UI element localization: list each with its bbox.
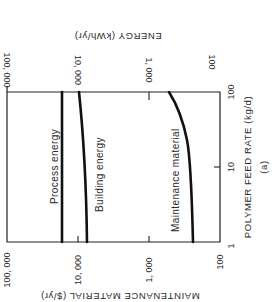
y-left-tick-10000: 10, 000 <box>73 255 83 285</box>
x-tick-label-100: 100 <box>226 84 236 99</box>
x-axis-title: POLYMER FEED RATE (kg/d) <box>242 96 253 238</box>
building-energy-curve <box>79 92 87 242</box>
x-tick-label-10: 10 <box>226 162 236 172</box>
building-energy-label: Building energy <box>94 137 105 212</box>
x-tick-label-1: 1 <box>226 243 236 248</box>
y-left-tick-100: 100 <box>215 254 225 269</box>
y-right-tick-1000: 1, 000 <box>144 57 154 82</box>
y-left-tick-100000: 100, 000 <box>2 252 12 287</box>
y-right-tick-100000: 100, 000 <box>2 52 12 87</box>
process-energy-label: Process energy <box>49 129 60 204</box>
figure-caption: (a) <box>258 160 269 173</box>
y-right-axis-title: ENERGY (kWh/yr) <box>74 31 161 42</box>
y-left-axis-title: MAINTENANCE MATERIAL ($/yr) <box>40 291 199 302</box>
plot-frame <box>7 86 220 242</box>
chart-figure: Process energy Building energy Maintenan… <box>0 0 274 302</box>
y-left-tick-1000: 1, 000 <box>144 257 154 282</box>
y-right-tick-10000: 10, 000 <box>73 55 83 85</box>
maintenance-material-label: Maintenance material <box>170 128 181 232</box>
y-right-tick-100: 100 <box>207 54 217 69</box>
